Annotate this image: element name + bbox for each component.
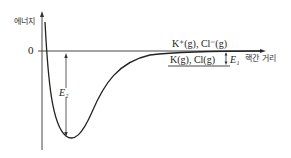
e1-label: E₁ (230, 55, 240, 65)
lower-level-label: K(g), Cl(g) (170, 55, 215, 65)
e1-arrow-up-icon (225, 52, 228, 56)
energy-curve-plot (0, 0, 291, 158)
zero-label: 0 (28, 45, 34, 56)
e2-arrow-up-icon (64, 53, 67, 58)
potential-curve (45, 22, 262, 138)
potential-energy-diagram: 에너지 0 K⁺(g), Cl⁻(g) K(g), Cl(g) E₁ 핵간 거리… (0, 0, 291, 158)
y-axis-label: 에너지 (14, 18, 35, 26)
upper-level-label: K⁺(g), Cl⁻(g) (172, 39, 227, 49)
e2-label: E₂ (59, 88, 69, 98)
y-axis-arrow-icon (40, 11, 44, 17)
x-axis-label: 핵간 거리 (245, 55, 276, 63)
e1-arrow-down-icon (225, 62, 228, 66)
